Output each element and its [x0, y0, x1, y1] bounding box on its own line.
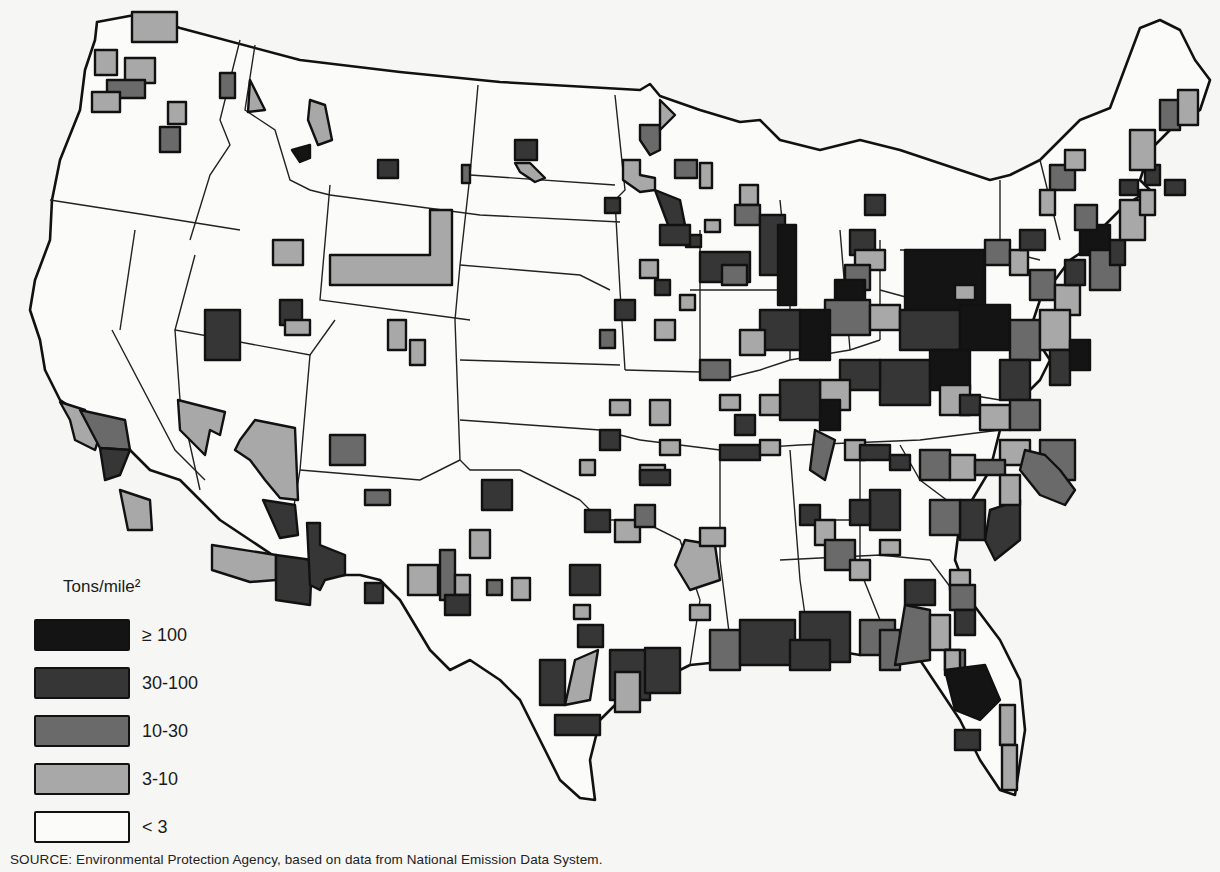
- legend-label: 3-10: [142, 769, 178, 790]
- legend-swatch: [34, 619, 130, 651]
- legend-item-3-10: 3-10: [34, 755, 198, 803]
- legend-label: ≥ 100: [142, 625, 187, 646]
- legend-swatch: [34, 715, 130, 747]
- legend-item-ge100: ≥ 100: [34, 611, 198, 659]
- legend-item-30-100: 30-100: [34, 659, 198, 707]
- legend-item-10-30: 10-30: [34, 707, 198, 755]
- legend-item-lt3: < 3: [34, 803, 198, 851]
- source-note: SOURCE: Environmental Protection Agency,…: [10, 852, 603, 867]
- legend-label: < 3: [142, 817, 168, 838]
- legend-swatch: [34, 763, 130, 795]
- legend-label: 10-30: [142, 721, 188, 742]
- legend-label: 30-100: [142, 673, 198, 694]
- legend-swatch: [34, 811, 130, 843]
- legend-title: Tons/mile²: [63, 577, 198, 597]
- legend: Tons/mile² ≥ 100 30-100 10-30 3-10 < 3: [34, 577, 198, 851]
- legend-swatch: [34, 667, 130, 699]
